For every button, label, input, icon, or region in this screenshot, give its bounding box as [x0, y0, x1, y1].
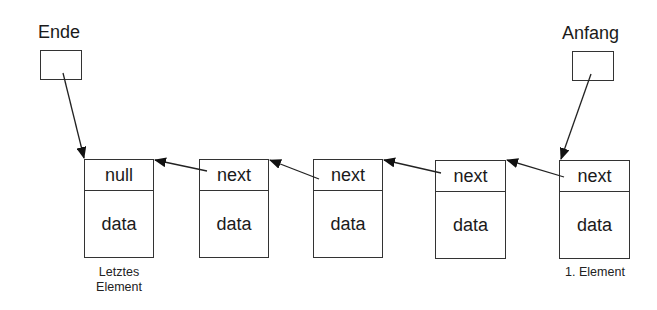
arrow-layer	[0, 0, 657, 310]
next-link-arrow	[507, 160, 564, 177]
end-pointer-arrow	[63, 73, 84, 158]
next-link-arrow	[155, 160, 207, 171]
start-pointer-arrow	[561, 74, 591, 159]
next-link-arrow	[384, 160, 441, 173]
next-link-arrow	[270, 160, 319, 179]
